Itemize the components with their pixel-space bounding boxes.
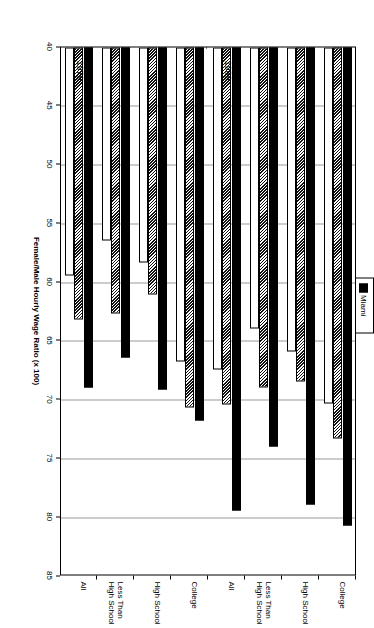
x-axis-tick — [56, 163, 60, 164]
bar-us — [296, 47, 305, 381]
bar-miami — [343, 47, 352, 525]
x-axis-tick-label: 70 — [45, 387, 54, 411]
category-tick — [133, 575, 134, 579]
category-label: All — [228, 581, 237, 628]
x-axis-tick — [56, 457, 60, 458]
bar-miami — [269, 47, 278, 446]
x-axis-tick — [56, 575, 60, 576]
category-label: All — [80, 581, 89, 628]
category-tick — [244, 575, 245, 579]
x-axis-tick-label: 75 — [45, 445, 54, 469]
bar-miami — [232, 47, 241, 510]
bar-miami — [84, 47, 93, 387]
bar-st-louis — [65, 47, 74, 275]
x-axis-tick — [56, 281, 60, 282]
category-tick — [318, 575, 319, 579]
bar-st-louis — [102, 47, 111, 240]
bar-miami — [195, 47, 204, 420]
panel-label-1979: 1979 — [75, 60, 85, 80]
x-axis-tick-label: 85 — [45, 563, 54, 587]
bar-us — [74, 47, 83, 319]
x-axis-title: Female/Male Hourly Wage Ratio (x 100) — [32, 226, 41, 396]
legend-item-miami: Miami — [358, 283, 370, 326]
category-label: Less Than High School — [108, 581, 126, 628]
x-axis-tick — [56, 222, 60, 223]
bar-miami — [121, 47, 130, 357]
x-axis-tick — [56, 104, 60, 105]
bar-miami — [306, 47, 315, 504]
bar-st-louis — [139, 47, 148, 262]
category-label: High School — [302, 581, 311, 628]
category-label: Less Than High School — [256, 581, 274, 628]
category-tick — [96, 575, 97, 579]
legend-swatch-miami — [360, 283, 369, 292]
category-tick — [170, 575, 171, 579]
category-tick — [355, 575, 356, 579]
category-label: College — [191, 581, 200, 628]
legend-label-miami: Miami — [360, 295, 369, 316]
x-axis-tick — [56, 339, 60, 340]
x-axis-tick-label: 65 — [45, 328, 54, 352]
category-tick — [207, 575, 208, 579]
bar-us — [111, 47, 120, 313]
bar-st-louis — [250, 47, 259, 328]
panel-divider — [206, 47, 207, 48]
gridline — [61, 517, 355, 518]
bar-us — [185, 47, 194, 407]
category-label: High School — [154, 581, 163, 628]
category-label: College — [339, 581, 348, 628]
bar-us — [148, 47, 157, 294]
plot-area — [60, 46, 356, 575]
x-axis-tick-label: 60 — [45, 269, 54, 293]
x-axis-tick — [56, 516, 60, 517]
x-axis-tick-label: 50 — [45, 152, 54, 176]
bar-us — [333, 47, 342, 438]
x-axis-tick-label: 55 — [45, 210, 54, 234]
x-axis-tick — [56, 398, 60, 399]
panel-label-1989: 1989 — [223, 60, 233, 80]
x-axis-tick — [56, 46, 60, 47]
x-axis-tick-label: 40 — [45, 34, 54, 58]
bar-us — [222, 47, 231, 404]
category-tick — [281, 575, 282, 579]
x-axis-tick-label: 80 — [45, 504, 54, 528]
x-axis-tick-label: 45 — [45, 93, 54, 117]
bar-us — [259, 47, 268, 387]
bar-st-louis — [213, 47, 222, 369]
bar-st-louis — [176, 47, 185, 361]
bar-st-louis — [324, 47, 333, 403]
bar-st-louis — [287, 47, 296, 351]
bar-miami — [158, 47, 167, 389]
